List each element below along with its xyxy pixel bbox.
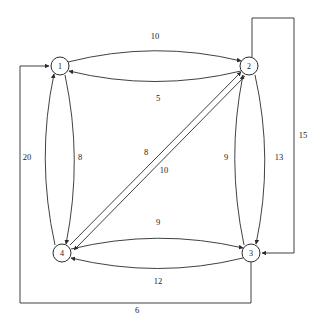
edge-label-2-3-outer: 15 <box>299 130 308 140</box>
node-1[interactable]: 1 <box>51 57 69 75</box>
edge-label-4-1: 20 <box>23 152 32 162</box>
edge-label-4-3: 9 <box>156 217 160 227</box>
edge-4-1-path <box>45 74 55 245</box>
edge-2-3-path <box>255 75 265 244</box>
node-3[interactable]: 3 <box>242 244 260 262</box>
edge-2-1-path <box>69 71 241 82</box>
edge-label-2-1: 5 <box>156 93 160 103</box>
edge-label-1-2: 10 <box>151 31 160 41</box>
edge-label-1-4: 8 <box>78 152 82 162</box>
edge-1-4-path <box>65 75 74 244</box>
node-2-label: 2 <box>247 62 251 71</box>
edge-4-3-path <box>71 238 243 249</box>
node-4[interactable]: 4 <box>53 244 71 262</box>
edge-label-3-1-outer: 6 <box>135 305 139 315</box>
edge-3-4-path <box>71 258 243 269</box>
edge-label-3-4: 12 <box>154 276 163 286</box>
node-1-label: 1 <box>58 62 62 71</box>
edge-label-2-4: 10 <box>160 165 169 175</box>
edge-label-4-2: 8 <box>144 147 148 157</box>
edge-label-2-3: 13 <box>275 152 284 162</box>
edge-3-2-path <box>235 75 244 245</box>
edge-2-3-outer-path <box>252 18 294 253</box>
edge-label-3-2: 9 <box>224 152 228 162</box>
node-2[interactable]: 2 <box>240 57 258 75</box>
node-3-label: 3 <box>249 249 253 258</box>
graph-diagram: 1 2 3 4 10 5 20 8 8 10 9 13 9 12 15 6 <box>0 0 324 323</box>
edge-1-2-path <box>68 51 241 62</box>
graph-canvas: 1 2 3 4 10 5 20 8 8 10 9 13 9 12 15 6 <box>0 0 324 323</box>
node-4-label: 4 <box>60 249 64 258</box>
